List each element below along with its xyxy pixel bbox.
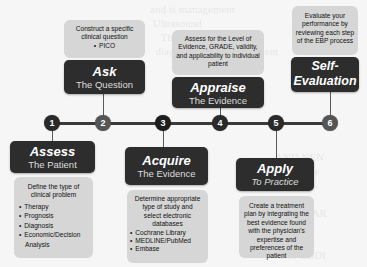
ask-header-box: Ask The Question bbox=[64, 60, 145, 94]
acquire-title: Acquire bbox=[125, 153, 208, 168]
appraise-description-box: Assess for the Level of Evidence, GRADE,… bbox=[172, 30, 264, 75]
self-evaluation-header-box: Self-Evaluation bbox=[291, 57, 359, 92]
self-evaluation-description: Evaluate your performance by reviewing e… bbox=[295, 12, 355, 46]
step-node-5: 5 bbox=[268, 115, 284, 131]
assess-header-box: Assess The Patient bbox=[10, 141, 95, 173]
connector-5 bbox=[276, 130, 278, 159]
step-node-4: 4 bbox=[212, 115, 228, 131]
ask-description-box: Construct a specific clinical question P… bbox=[64, 20, 145, 58]
connector-3 bbox=[163, 130, 165, 148]
assess-description: Define the type of clinical problem bbox=[25, 183, 82, 200]
connector-6 bbox=[330, 92, 332, 116]
step-node-6: 6 bbox=[322, 115, 338, 131]
appraise-title: Appraise bbox=[172, 80, 264, 95]
timeline-line bbox=[52, 122, 330, 125]
assess-subtitle: The Patient bbox=[10, 159, 95, 170]
apply-title: Apply bbox=[236, 161, 314, 176]
step-node-1: 1 bbox=[44, 115, 60, 131]
assess-title: Assess bbox=[10, 144, 95, 159]
acquire-bullet-2: MEDLINE/PubMed bbox=[130, 237, 205, 245]
apply-subtitle: To Practice bbox=[236, 176, 314, 187]
assess-bullet-2: Prognosis bbox=[19, 211, 88, 221]
step-node-2: 2 bbox=[95, 115, 111, 131]
acquire-bullet-3: Embase bbox=[130, 245, 205, 253]
acquire-bullet-1: Cochrane Library bbox=[130, 229, 205, 237]
acquire-subtitle: The Evidence bbox=[125, 168, 208, 179]
apply-header-box: Apply To Practice bbox=[236, 158, 314, 191]
connector-2 bbox=[103, 94, 105, 116]
acquire-header-box: Acquire The Evidence bbox=[125, 147, 208, 185]
ask-subtitle: The Question bbox=[64, 79, 145, 90]
appraise-header-box: Appraise The Evidence bbox=[172, 77, 264, 108]
assess-bullet-1: Therapy bbox=[19, 202, 88, 212]
assess-bullet-4: Economic/Decision Analysis bbox=[19, 230, 88, 249]
acquire-description-box: Determine appropriate type of study and … bbox=[127, 190, 208, 263]
apply-description-box: Create a treatment plan by integrating t… bbox=[239, 196, 314, 258]
self-evaluation-description-box: Evaluate your performance by reviewing e… bbox=[292, 6, 358, 55]
appraise-description: Assess for the Level of Evidence, GRADE,… bbox=[175, 35, 261, 69]
assess-description-box: Define the type of clinical problem Ther… bbox=[14, 177, 93, 258]
assess-bullet-3: Diagnosis bbox=[19, 221, 88, 231]
ask-bullet-1: PICO bbox=[67, 42, 142, 50]
step-node-3: 3 bbox=[155, 115, 171, 131]
self-evaluation-title: Self-Evaluation bbox=[291, 59, 359, 89]
appraise-subtitle: The Evidence bbox=[172, 95, 264, 106]
apply-description: Create a treatment plan by integrating t… bbox=[242, 202, 311, 261]
acquire-description: Determine appropriate type of study and … bbox=[134, 195, 201, 229]
ask-title: Ask bbox=[64, 64, 145, 79]
ask-description: Construct a specific clinical question bbox=[67, 25, 142, 42]
